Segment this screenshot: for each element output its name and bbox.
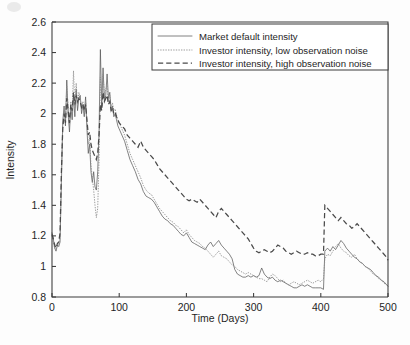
y-tick-label: 2.2 (31, 77, 46, 89)
y-tick-label: 1.8 (31, 138, 46, 150)
legend-label-2: Investor intensity, high observation noi… (199, 58, 372, 69)
y-tick-label: 1.6 (31, 168, 46, 180)
y-tick-label: 1 (40, 260, 46, 272)
x-tick-label: 500 (379, 301, 397, 313)
x-tick-label: 0 (49, 301, 55, 313)
chart-legend[interactable]: Market default intensity Investor intens… (152, 24, 388, 70)
y-tick-label: 0.8 (31, 291, 46, 303)
y-tick-label: 2.6 (31, 16, 46, 28)
y-tick-label: 2.4 (31, 46, 46, 58)
x-tick-label: 400 (312, 301, 330, 313)
figure-container: 0.811.21.41.61.822.22.42.6 0100200300400… (0, 0, 410, 345)
x-tick-label: 100 (110, 301, 128, 313)
y-axis-title: Intensity (4, 140, 16, 180)
x-axis-title: Time (Days) (192, 312, 249, 324)
y-tick-label: 1.2 (31, 229, 46, 241)
scan-artifact (7, 2, 21, 12)
y-tick-label: 2 (40, 107, 46, 119)
chart-canvas: 0.811.21.41.61.822.22.42.6 0100200300400… (0, 0, 410, 345)
legend-label-0: Market default intensity (199, 31, 298, 42)
legend-label-1: Investor intensity, low observation nois… (199, 45, 368, 56)
y-tick-label: 1.4 (31, 199, 46, 211)
